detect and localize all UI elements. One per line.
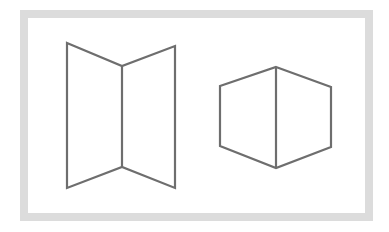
diagram-canvas [0,0,389,232]
right-prism-figure [220,67,331,168]
left-folded-figure [67,43,175,188]
